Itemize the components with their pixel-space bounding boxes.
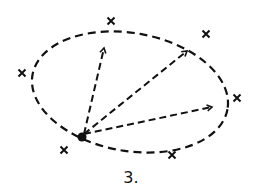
diagram-canvas [0,0,261,194]
x-mark-icon [234,95,241,102]
x-mark-icon [108,18,115,25]
arrow-1 [84,48,104,134]
ellipse-outline [22,17,237,168]
origin-dot [78,133,87,142]
x-mark-icon [203,31,210,38]
arrow-3 [84,107,212,134]
x-marks [19,18,241,159]
dashed-ellipse [22,17,237,168]
x-mark-icon [169,152,176,159]
figure-label: 3. [118,168,144,187]
dashed-arrows [84,48,212,134]
x-mark-icon [19,70,26,77]
x-mark-icon [61,147,68,154]
